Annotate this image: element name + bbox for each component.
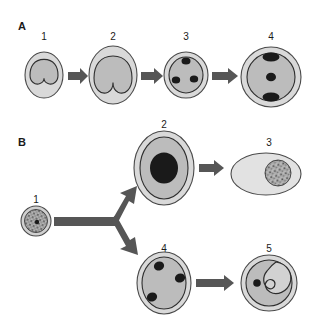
a3-nucleus-3 [190,75,198,82]
stage-b1-number: 1 [33,194,39,205]
b2-large-nucleus [150,153,178,184]
stage-a3-number: 3 [183,31,189,42]
stage-a4-number: 4 [268,31,274,42]
b1-center-dot [35,220,39,224]
figure-container: A 1 2 3 [0,0,317,319]
stage-b3-number: 3 [266,137,272,148]
panel-a-letter: A [18,20,26,32]
developmental-pathway-diagram: A 1 2 3 [0,0,317,319]
a3-nucleus-2 [172,76,180,83]
stage-b2-number: 2 [161,119,167,130]
stage-a2-number: 2 [110,31,116,42]
a1-bilobed-cytoplasm [30,59,58,84]
stage-b5-number: 5 [266,243,272,254]
a4-nucleus-center [266,73,276,82]
stage-a1-number: 1 [41,31,47,42]
a3-nucleus-1 [182,57,191,64]
panel-b-letter: B [18,136,26,148]
a4-nucleus-bottom [263,92,280,101]
b5-nucleus-dot [253,279,261,287]
b-arrow-stem [54,217,116,226]
a4-nucleus-top [263,52,280,61]
b3-internal-spore [265,160,291,186]
